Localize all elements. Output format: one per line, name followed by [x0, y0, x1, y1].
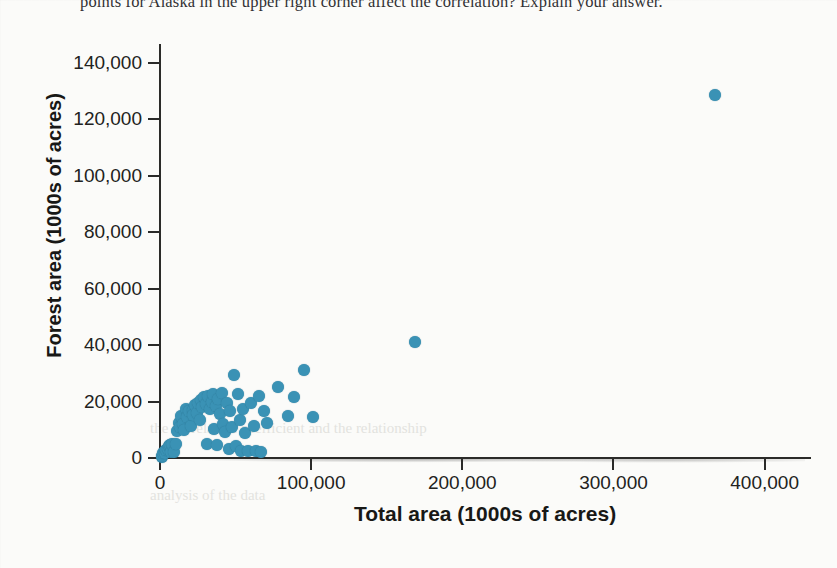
data-point — [255, 446, 267, 458]
y-tick-label: 120,000 — [73, 108, 142, 130]
page-fold-shadow — [165, 459, 805, 468]
y-tick — [148, 175, 160, 177]
x-axis-label: Total area (1000s of acres) — [160, 502, 810, 526]
y-tick — [148, 288, 160, 290]
x-tick-label: 200,000 — [428, 472, 497, 494]
y-axis-label: Forest area (1000s of acres) — [43, 26, 66, 426]
x-tick — [310, 458, 312, 470]
y-tick — [148, 401, 160, 403]
data-point — [232, 388, 244, 400]
x-tick-label: 300,000 — [579, 472, 648, 494]
y-tick-label: 40,000 — [84, 334, 142, 356]
data-point — [258, 405, 270, 417]
x-tick — [461, 458, 463, 470]
data-point — [288, 391, 300, 403]
data-point — [228, 369, 240, 381]
data-point — [709, 89, 721, 101]
data-point — [194, 414, 206, 426]
data-point — [248, 420, 260, 432]
data-point — [409, 336, 421, 348]
y-tick-label: 100,000 — [73, 165, 142, 187]
y-tick-label: 80,000 — [84, 221, 142, 243]
y-tick-label: 60,000 — [84, 278, 142, 300]
plot-area — [160, 40, 810, 458]
data-point — [234, 414, 246, 426]
data-point — [261, 417, 273, 429]
x-tick — [612, 458, 614, 470]
data-point — [253, 390, 265, 402]
data-point — [211, 439, 223, 451]
y-tick — [148, 344, 160, 346]
y-tick-label: 0 — [131, 447, 142, 469]
scanned-textbook-page: points for Alaska in the upper right cor… — [0, 0, 837, 568]
data-point — [307, 411, 319, 423]
data-point — [224, 405, 236, 417]
scatter-plot: 020,00040,00060,00080,000100,000120,0001… — [0, 0, 837, 568]
x-tick-label: 400,000 — [730, 472, 799, 494]
data-point — [272, 381, 284, 393]
y-tick — [148, 118, 160, 120]
x-tick-label: 100,000 — [277, 472, 346, 494]
y-tick — [148, 62, 160, 64]
data-point — [298, 364, 310, 376]
y-tick-label: 140,000 — [73, 52, 142, 74]
y-tick — [148, 231, 160, 233]
x-tick-label: 0 — [155, 472, 166, 494]
data-point — [170, 438, 182, 450]
x-tick — [764, 458, 766, 470]
data-point — [282, 410, 294, 422]
y-tick-label: 20,000 — [84, 391, 142, 413]
